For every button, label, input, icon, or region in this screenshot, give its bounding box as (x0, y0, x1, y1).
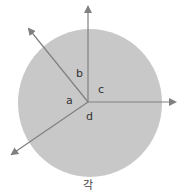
angle-label-b: b (76, 68, 83, 79)
angle-diagram (0, 0, 181, 194)
angle-label-a: a (66, 95, 73, 106)
angle-label-c: c (98, 84, 104, 95)
circle-region (18, 29, 162, 177)
diagram-caption: 각 (83, 180, 93, 191)
angle-label-d: d (86, 111, 93, 122)
